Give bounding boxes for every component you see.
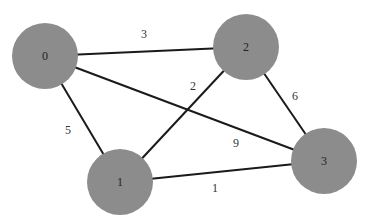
edge-weight-label: 5 [65,123,71,137]
node-2: 2 [213,14,279,80]
graph-diagram: 359261 0123 [0,0,369,223]
edges-group [45,47,324,182]
node-label: 3 [321,154,327,168]
edge-weight-label: 1 [212,181,218,195]
node-label: 1 [117,175,123,189]
edge-weight-label: 9 [233,136,239,150]
edge-weight-label: 6 [292,89,298,103]
edge-weight-label: 3 [141,27,147,41]
node-3: 3 [291,128,357,194]
node-label: 0 [42,49,48,63]
node-1: 1 [87,149,153,215]
node-label: 2 [243,40,249,54]
nodes-group: 0123 [12,14,357,215]
edge-weight-label: 2 [190,79,196,93]
node-0: 0 [12,23,78,89]
edge-0-3 [45,56,324,161]
